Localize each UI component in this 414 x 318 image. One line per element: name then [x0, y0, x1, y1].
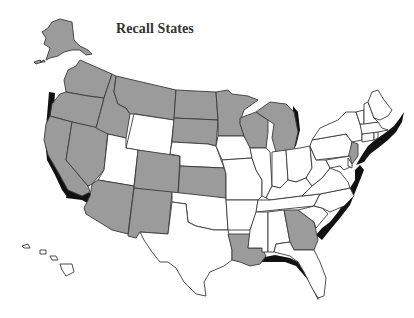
- state-WA[interactable]: [64, 60, 112, 98]
- state-AZ[interactable]: [84, 180, 134, 234]
- us-map: [0, 0, 414, 318]
- states: [22, 19, 392, 298]
- state-HI[interactable]: [22, 244, 74, 276]
- state-AK[interactable]: [42, 19, 92, 60]
- state-AK-islands: [34, 60, 45, 64]
- state-ND[interactable]: [174, 90, 218, 120]
- state-NM[interactable]: [128, 188, 172, 238]
- state-CO[interactable]: [134, 150, 180, 194]
- state-RI[interactable]: [374, 132, 378, 140]
- state-SD[interactable]: [172, 118, 218, 146]
